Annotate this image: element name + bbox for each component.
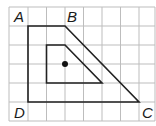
vertex-label-c: C — [142, 104, 153, 121]
grid-lines — [9, 7, 155, 121]
center-point — [62, 61, 68, 67]
vertex-label-a: A — [13, 8, 24, 25]
trapezoid-grid-diagram: A B C D — [0, 0, 156, 126]
vertex-label-b: B — [67, 8, 77, 25]
vertex-label-d: D — [14, 104, 25, 121]
